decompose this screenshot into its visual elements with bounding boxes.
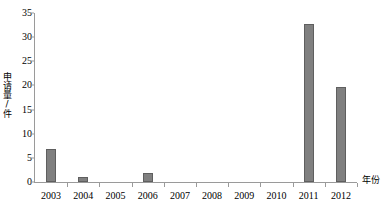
bar <box>46 149 56 182</box>
y-axis-tick <box>30 85 34 86</box>
x-axis-tick-label: 2007 <box>170 190 190 202</box>
y-axis-tick <box>30 13 34 14</box>
x-axis-tick-label: 2008 <box>202 190 222 202</box>
y-axis-tick <box>30 37 34 38</box>
x-axis-tick-label: 2004 <box>73 190 93 202</box>
x-axis-tick-label: 2003 <box>41 190 61 202</box>
x-axis-tick <box>228 183 229 187</box>
x-axis-tick-label: 2010 <box>267 190 287 202</box>
x-axis-tick <box>196 183 197 187</box>
y-axis-tick-labels: 05101520253035 <box>12 0 32 222</box>
x-axis-tick <box>164 183 165 187</box>
y-axis-tick <box>30 61 34 62</box>
bar <box>304 24 314 182</box>
x-axis-tick <box>293 183 294 187</box>
x-axis-tick-label: 2009 <box>234 190 254 202</box>
plot-area <box>35 13 357 182</box>
x-axis-tick-label: 2011 <box>299 190 319 202</box>
x-axis-tick <box>357 183 358 187</box>
x-axis-tick-labels: 2003200420052006200720082009201020112012 <box>35 190 357 206</box>
x-axis-tick <box>132 183 133 187</box>
x-axis-tick <box>325 183 326 187</box>
bar <box>336 87 346 182</box>
y-axis-tick <box>30 133 34 134</box>
x-axis-tick <box>260 183 261 187</box>
bar-chart: 申请量/件 05101520253035 2003200420052006200… <box>0 0 390 222</box>
x-axis-tick <box>67 183 68 187</box>
x-axis-tick-label: 2006 <box>138 190 158 202</box>
bar <box>78 177 88 182</box>
y-axis-tick <box>30 182 34 183</box>
bar <box>143 173 153 182</box>
x-axis-tick-label: 2005 <box>106 190 126 202</box>
x-axis-tick-label: 2012 <box>331 190 351 202</box>
x-axis-tick <box>99 183 100 187</box>
y-axis-tick <box>30 109 34 110</box>
x-axis-title: 年份 <box>362 175 380 186</box>
y-axis-tick <box>30 157 34 158</box>
